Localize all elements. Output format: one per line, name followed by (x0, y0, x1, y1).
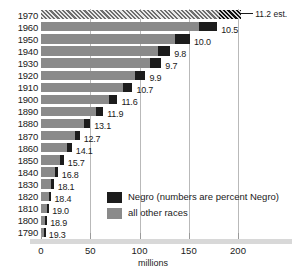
y-label-1900: 1900 (18, 95, 38, 105)
bar-row (41, 21, 217, 33)
bar-segment-all-other-races (41, 107, 96, 116)
bar-segment-all-other-races (41, 22, 199, 31)
bar-segment-negro (219, 10, 241, 19)
estimate-leader-line (241, 13, 253, 14)
y-label-1850: 1850 (18, 156, 38, 166)
bar-segment-negro (123, 83, 133, 92)
y-label-1860: 1860 (18, 144, 38, 154)
bar-segment-all-other-races (41, 58, 150, 67)
x-tick-label-0: 0 (38, 246, 43, 256)
x-axis-band (30, 239, 292, 244)
y-label-1810: 1810 (18, 204, 38, 214)
bar-row (41, 166, 58, 178)
bar-segment-negro (44, 228, 46, 237)
y-label-1970: 1970 (18, 11, 38, 21)
y-label-1800: 1800 (18, 216, 38, 226)
bar-segment-negro (60, 155, 64, 164)
y-label-1910: 1910 (18, 83, 38, 93)
value-label-1830: 18.1 (58, 183, 75, 192)
legend-item-negro: Negro (numbers are percent Negro) (107, 190, 279, 204)
y-label-1870: 1870 (18, 132, 38, 142)
y-label-1890: 1890 (18, 107, 38, 117)
x-tickmark-200 (238, 233, 239, 239)
bar-segment-negro (135, 71, 145, 80)
bar-row (41, 33, 190, 45)
x-tick-label-100: 100 (132, 246, 148, 256)
bar-segment-negro (55, 167, 58, 176)
y-label-1940: 1940 (18, 47, 38, 57)
x-axis-title: millions (0, 258, 306, 268)
bar-segment-negro (75, 131, 80, 140)
bar-row (41, 203, 48, 215)
value-label-1920: 9.9 (149, 74, 161, 83)
bar-segment-all-other-races (41, 167, 55, 176)
value-label-1910: 10.7 (136, 86, 153, 95)
bar-row (41, 45, 170, 57)
x-tick-label-150: 150 (181, 246, 197, 256)
value-label-1850: 15.7 (68, 159, 85, 168)
legend-item-all-other-races: all other races (107, 206, 279, 220)
bar-row (41, 82, 132, 94)
legend-label-all-other-races: all other races (128, 208, 188, 218)
legend-swatch-negro (107, 192, 122, 203)
y-label-1840: 1840 (18, 168, 38, 178)
x-tick-label-50: 50 (85, 246, 96, 256)
bar-segment-all-other-races (41, 143, 67, 152)
x-tickmark-0 (41, 233, 42, 239)
bar-segment-all-other-races (41, 71, 135, 80)
bar-segment-negro (109, 95, 118, 104)
value-label-1900: 11.6 (121, 98, 137, 107)
bar-segment-negro (150, 58, 162, 67)
bar-row (41, 130, 80, 142)
bar-segment-all-other-races (41, 46, 158, 55)
bar-segment-negro (51, 179, 53, 188)
bar-row (41, 118, 90, 130)
bar-segment-negro (49, 192, 51, 201)
bar-row (41, 191, 51, 203)
bar-row (41, 154, 64, 166)
legend-label-negro: Negro (numbers are percent Negro) (128, 192, 279, 202)
bar-segment-negro (47, 204, 49, 213)
population-bar-chart: 1970196019501940193019201910190018901880… (0, 0, 306, 273)
value-label-1840: 16.8 (62, 171, 79, 180)
y-label-1830: 1830 (18, 180, 38, 190)
bar-segment-negro (158, 46, 171, 55)
y-label-1960: 1960 (18, 23, 38, 33)
bar-segment-all-other-races (41, 95, 109, 104)
value-label-1940: 9.8 (174, 50, 186, 59)
y-label-1880: 1880 (18, 119, 38, 129)
bar-row (41, 9, 241, 21)
estimate-annotation: 11.2 est. (255, 10, 287, 19)
bar-segment-all-other-races (41, 192, 49, 201)
y-axis-year-labels: 1970196019501940193019201910190018901880… (0, 0, 38, 240)
bar-segment-negro (175, 34, 190, 43)
value-label-1800: 18.9 (50, 219, 67, 228)
bar-segment-all-other-races (41, 155, 60, 164)
y-label-1820: 1820 (18, 192, 38, 202)
value-label-1860: 14.1 (76, 147, 93, 156)
value-label-1890: 11.9 (107, 110, 123, 119)
bar-row (41, 57, 161, 69)
bar-segment-negro (45, 216, 47, 225)
bar-segment-negro (67, 143, 71, 152)
bar-row (41, 106, 103, 118)
bar-segment-all-other-races (41, 83, 123, 92)
bar-row (41, 70, 145, 82)
bar-row (41, 142, 72, 154)
bar-segment-negro (96, 107, 103, 116)
value-label-1810: 19.0 (52, 207, 69, 216)
y-label-1920: 1920 (18, 71, 38, 81)
y-label-1950: 1950 (18, 35, 38, 45)
value-label-1870: 12.7 (84, 135, 101, 144)
value-label-1950: 10.0 (194, 38, 211, 47)
bar-segment-all-other-races (41, 131, 75, 140)
chart-legend: Negro (numbers are percent Negro) all ot… (107, 190, 279, 222)
bar-segment-all-other-races (41, 10, 219, 19)
bar-row (41, 215, 46, 227)
bar-row (41, 94, 117, 106)
value-label-1930: 9.7 (165, 62, 177, 71)
legend-swatch-all-other-races (107, 208, 122, 219)
x-tickmark-100 (140, 233, 141, 239)
x-tickmark-50 (90, 233, 91, 239)
x-tick-label-200: 200 (230, 246, 246, 256)
